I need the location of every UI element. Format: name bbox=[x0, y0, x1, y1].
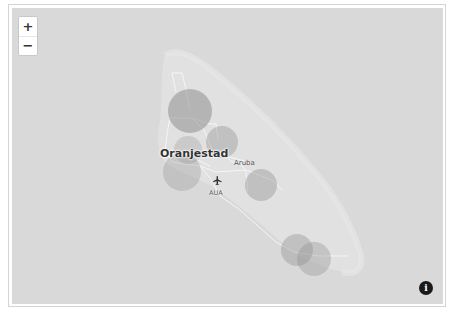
data-bubble[interactable] bbox=[245, 169, 277, 201]
info-button[interactable]: i bbox=[419, 281, 433, 295]
zoom-out-button[interactable]: − bbox=[19, 36, 37, 56]
airplane-icon bbox=[212, 175, 223, 186]
island-label-aruba: Aruba bbox=[234, 159, 255, 167]
city-label-oranjestad: Oranjestad bbox=[160, 147, 228, 160]
info-icon: i bbox=[424, 284, 427, 293]
map-canvas[interactable]: + − Oranjestad Aruba AUA i bbox=[12, 8, 443, 304]
zoom-control: + − bbox=[18, 16, 38, 56]
zoom-in-button[interactable]: + bbox=[19, 17, 37, 36]
data-bubble[interactable] bbox=[168, 89, 212, 133]
airport-label-aua: AUA bbox=[209, 189, 223, 197]
data-bubble[interactable] bbox=[297, 242, 331, 276]
